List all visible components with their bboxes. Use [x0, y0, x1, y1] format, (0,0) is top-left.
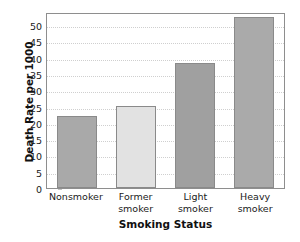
x-tick-label: Lightsmoker — [166, 191, 226, 214]
y-tick-label: 0 — [36, 184, 42, 195]
x-axis-title: Smoking Status — [46, 218, 285, 230]
y-tick-label: 35 — [30, 69, 42, 80]
x-tick-label: Nonsmoker — [46, 191, 106, 214]
y-tick-label: 30 — [30, 86, 42, 97]
x-tick-label-line: Former — [119, 191, 153, 202]
x-tick-label-line: smoker — [166, 203, 226, 215]
y-tick-label: 50 — [30, 21, 42, 32]
x-tick-label-line: smoker — [225, 203, 285, 215]
y-tick-label: 15 — [30, 135, 42, 146]
x-axis-tick-labels: NonsmokerFormersmokerLightsmokerHeavysmo… — [46, 191, 285, 214]
y-tick-label: 40 — [30, 53, 42, 64]
x-tick-label-line: Heavy — [240, 191, 270, 202]
x-tick-label-line: Light — [184, 191, 208, 202]
y-tick-label: 25 — [30, 102, 42, 113]
plot-area — [46, 13, 285, 189]
x-tick-label: Heavysmoker — [225, 191, 285, 214]
x-tick-label: Formersmoker — [106, 191, 166, 214]
y-tick-label: 20 — [30, 118, 42, 129]
bars-group — [47, 14, 284, 188]
bar — [234, 17, 274, 188]
y-tick-label: 10 — [30, 151, 42, 162]
bar-chart: Death Rate per 1000 05101520253035404550… — [0, 0, 300, 242]
bar — [116, 106, 156, 188]
x-tick-label-line: Nonsmoker — [49, 191, 103, 202]
y-tick-label: 5 — [36, 167, 42, 178]
y-tick-label: 45 — [30, 37, 42, 48]
bar — [175, 63, 215, 188]
x-tick-label-line: smoker — [106, 203, 166, 215]
bar — [57, 116, 97, 188]
y-axis-tick-labels: 05101520253035404550 — [16, 13, 42, 189]
